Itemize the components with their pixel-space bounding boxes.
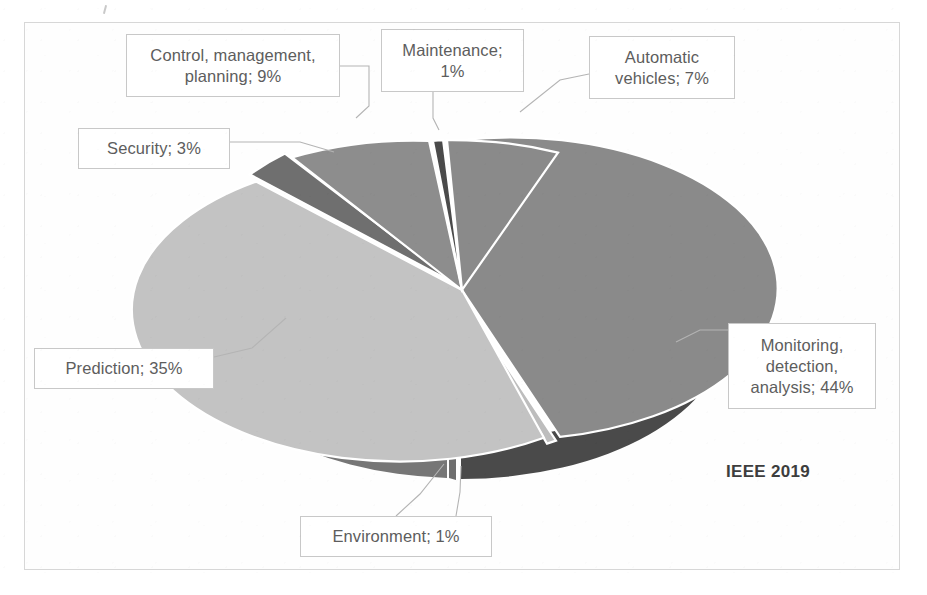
label-maintenance-line1: Maintenance; [402,40,502,61]
label-control-management-planning[interactable]: Control, management, planning; 9% [126,34,340,97]
label-prediction[interactable]: Prediction; 35% [34,348,214,389]
source-watermark: IEEE 2019 [726,462,810,482]
label-monitoring-detection-analysis[interactable]: Monitoring, detection, analysis; 44% [728,323,876,409]
leader-line-maintenance [433,92,439,130]
label-monitoring-line3: analysis; 44% [750,377,853,398]
leader-line-environment-2 [456,466,461,516]
label-automatic-line2: vehicles; 7% [615,68,709,89]
label-maintenance[interactable]: Maintenance; 1% [381,29,524,92]
label-prediction-line1: Prediction; 35% [65,358,182,379]
label-monitoring-line2: detection, [750,356,853,377]
label-environment-line1: Environment; 1% [332,526,459,547]
label-monitoring-line1: Monitoring, [750,335,853,356]
label-automatic-vehicles[interactable]: Automatic vehicles; 7% [589,36,735,99]
label-security-line1: Security; 3% [107,138,201,159]
label-automatic-line1: Automatic [615,47,709,68]
label-control-line2: planning; 9% [150,66,315,87]
label-maintenance-line2: 1% [402,61,502,82]
pie-chart-figure: Control, management, planning; 9% Mainte… [0,0,927,595]
label-control-line1: Control, management, [150,45,315,66]
label-environment[interactable]: Environment; 1% [300,516,492,557]
leader-line-control [340,66,369,118]
leader-line-automatic [520,74,589,112]
label-security[interactable]: Security; 3% [78,128,230,169]
